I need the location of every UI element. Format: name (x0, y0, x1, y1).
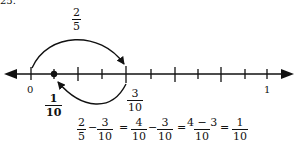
eq-term-4: 310 (157, 117, 173, 142)
problem-number: 25. (0, 0, 16, 6)
number-line-diagram: 25. 0 1 1 10 2 5 3 10 25 − 310 = 410 − 3… (0, 0, 298, 145)
eq-equals-3: = (220, 122, 229, 133)
label-zero: 0 (27, 85, 33, 95)
label-three-tenths: 3 10 (127, 88, 143, 113)
label-one-tenth: 1 10 (45, 93, 62, 118)
label-one: 1 (264, 85, 270, 95)
eq-term-3: 410 (131, 117, 147, 142)
forward-jump-arc (32, 40, 124, 68)
marked-point-dot (51, 71, 57, 77)
eq-equals-2: = (177, 122, 186, 133)
left-arrow-icon (4, 69, 17, 79)
eq-equals-1: = (119, 122, 128, 133)
eq-term-6: 110 (232, 117, 248, 142)
eq-minus-2: − (148, 122, 157, 133)
label-two-fifths: 2 5 (72, 7, 81, 32)
eq-minus-1: − (88, 122, 97, 133)
eq-term-5: 4 − 310 (186, 117, 218, 142)
right-arrow-icon (281, 69, 294, 79)
eq-term-1: 25 (77, 117, 86, 142)
backward-jump-arc (58, 82, 126, 104)
eq-term-2: 310 (97, 117, 113, 142)
